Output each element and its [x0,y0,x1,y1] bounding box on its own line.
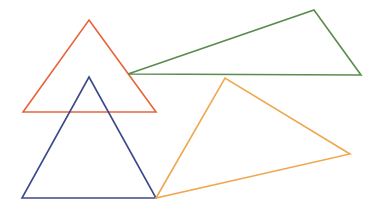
drawing-canvas [0,0,379,215]
triangles-diagram [0,0,379,215]
orange-triangle [156,78,350,198]
red-triangle [23,20,156,112]
blue-triangle [22,77,156,198]
green-triangle [128,10,361,75]
